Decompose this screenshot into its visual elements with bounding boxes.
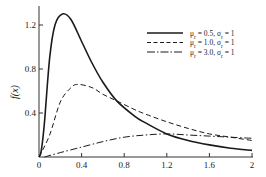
x-tick-label: 0.4	[76, 160, 88, 170]
x-ticks: 00.40.81.21.62	[37, 153, 255, 170]
legend-label: μr = 3.0, σr = 1	[190, 48, 235, 59]
y-tick-label: 0.8	[25, 64, 37, 74]
x-tick-label: 1.6	[204, 160, 216, 170]
x-tick-label: 2	[250, 160, 255, 170]
chart: 00.40.81.21.62 0.40.81.2 f(x) μr = 0.5, …	[0, 0, 266, 177]
y-tick-label: 0.4	[25, 108, 37, 118]
x-tick-label: 1.2	[161, 160, 172, 170]
y-ticks: 0.40.81.2	[25, 20, 43, 118]
y-axis-label: f(x)	[9, 84, 21, 99]
y-tick-label: 1.2	[25, 20, 36, 30]
series-line-mu-3-0	[44, 134, 252, 157]
legend: μr = 0.5, σr = 1μr = 1.0, σr = 1μr = 3.0…	[147, 29, 235, 59]
x-tick-label: 0.8	[119, 160, 131, 170]
x-tick-label: 0	[37, 160, 42, 170]
